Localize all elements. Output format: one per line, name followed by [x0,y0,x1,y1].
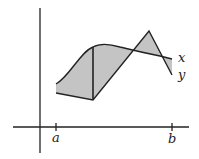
label-b: b [168,131,176,146]
label-y: y [177,67,186,82]
label-x: x [178,50,186,65]
label-a: a [52,130,60,145]
region-diagram: x y a b [0,0,199,159]
